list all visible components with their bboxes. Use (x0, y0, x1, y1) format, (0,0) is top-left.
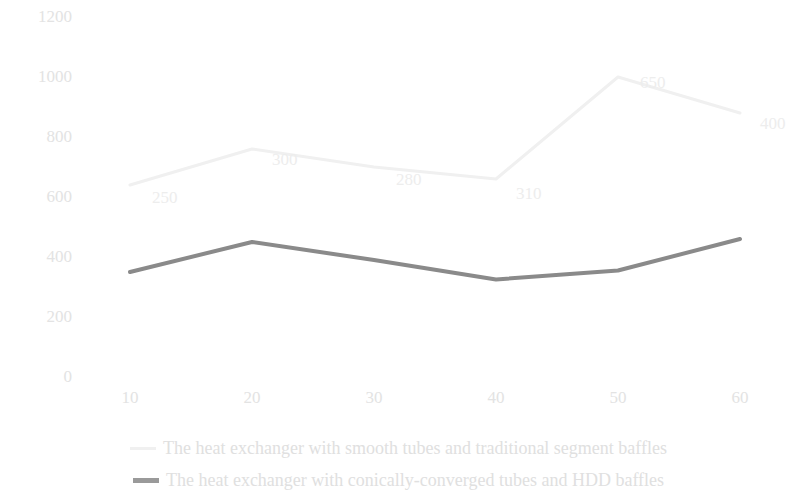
line-chart: 020040060080010001200 102030405060 25030… (0, 0, 797, 501)
chart-legend: The heat exchanger with smooth tubes and… (0, 430, 797, 501)
series-data-labels: 250300280310650400 (0, 0, 797, 430)
data-point-label: 400 (760, 115, 786, 133)
legend-item-label: The heat exchanger with smooth tubes and… (163, 438, 667, 458)
plot-area: 020040060080010001200 102030405060 25030… (0, 0, 797, 430)
legend-line-swatch-icon (130, 447, 156, 450)
data-point-label: 280 (396, 171, 422, 189)
legend-item-conical-tubes[interactable]: The heat exchanger with conically-conver… (0, 465, 797, 495)
legend-line-swatch-icon (133, 478, 159, 483)
data-point-label: 250 (152, 189, 178, 207)
legend-item-smooth-tubes[interactable]: The heat exchanger with smooth tubes and… (0, 433, 797, 463)
data-point-label: 310 (516, 185, 542, 203)
data-point-label: 650 (640, 74, 666, 92)
data-point-label: 300 (272, 151, 298, 169)
legend-item-label: The heat exchanger with conically-conver… (166, 470, 664, 490)
